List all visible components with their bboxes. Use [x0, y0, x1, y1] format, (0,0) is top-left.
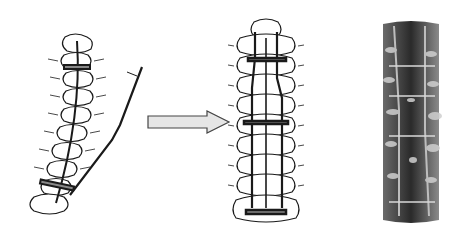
correction-arrow — [147, 110, 231, 134]
hook-top — [64, 65, 90, 69]
intraoperative-photo — [377, 20, 445, 224]
arrow-right-icon — [147, 110, 231, 134]
straight-spine-drawing — [228, 18, 304, 228]
after-spine-illustration — [228, 18, 304, 228]
instrumented-spine-photo — [377, 20, 445, 224]
